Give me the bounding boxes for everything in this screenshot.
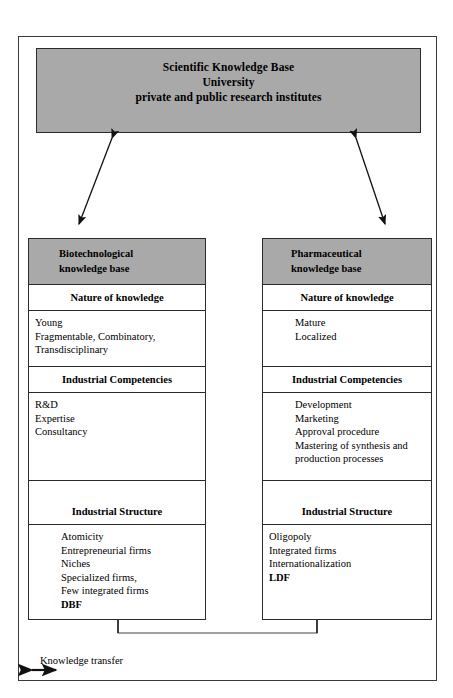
top-box-line-1: Scientific Knowledge Base bbox=[163, 60, 295, 75]
list-item: Mature bbox=[295, 316, 427, 330]
section-title-industrial-competencies-left: Industrial Competencies bbox=[29, 367, 205, 393]
top-box-line-3: private and public research institutes bbox=[135, 90, 321, 105]
diagram-page: Scientific Knowledge Base University pri… bbox=[0, 0, 453, 698]
list-item: Transdisciplinary bbox=[35, 343, 201, 357]
column-header-biotechnological: Biotechnological knowledge base bbox=[29, 239, 205, 285]
list-item: R&D bbox=[35, 398, 201, 412]
list-item: Specialized firms, bbox=[61, 571, 201, 585]
section-body-nature-of-knowledge-left: Young Fragmentable, Combinatory, Transdi… bbox=[29, 311, 205, 367]
section-title-industrial-structure-right: Industrial Structure bbox=[263, 481, 431, 525]
section-title-nature-of-knowledge-left: Nature of knowledge bbox=[29, 285, 205, 311]
list-item: Entrepreneurial firms bbox=[61, 544, 201, 558]
list-item: Fragmentable, Combinatory, bbox=[35, 330, 201, 344]
list-item: Marketing bbox=[295, 412, 427, 426]
column-header-line-1: Biotechnological bbox=[59, 246, 205, 261]
list-item: Integrated firms bbox=[269, 544, 427, 558]
column-header-line-1: Pharmaceutical bbox=[291, 246, 431, 261]
section-title-industrial-competencies-right: Industrial Competencies bbox=[263, 367, 431, 393]
list-item: Few integrated firms bbox=[61, 584, 201, 598]
list-item: DBF bbox=[61, 598, 201, 612]
column-header-line-2: knowledge base bbox=[59, 261, 205, 276]
section-body-industrial-structure-right: Oligopoly Integrated firms International… bbox=[263, 525, 431, 619]
list-item: Expertise bbox=[35, 412, 201, 426]
list-item: Development bbox=[295, 398, 427, 412]
pharmaceutical-knowledge-base-column: Pharmaceutical knowledge base Nature of … bbox=[262, 238, 432, 620]
legend-label: Knowledge transfer bbox=[26, 655, 123, 666]
list-item: production processes bbox=[295, 452, 427, 466]
list-item: Internationalization bbox=[269, 557, 427, 571]
list-item: Niches bbox=[61, 557, 201, 571]
top-box-line-2: University bbox=[202, 75, 254, 90]
legend: Knowledge transfer bbox=[26, 655, 123, 666]
list-item: Localized bbox=[295, 330, 427, 344]
list-item: Oligopoly bbox=[269, 530, 427, 544]
list-item: Mastering of synthesis and bbox=[295, 439, 427, 453]
biotechnological-knowledge-base-column: Biotechnological knowledge base Nature o… bbox=[28, 238, 206, 620]
list-item: Consultancy bbox=[35, 425, 201, 439]
list-item: Young bbox=[35, 316, 201, 330]
list-item: Approval procedure bbox=[295, 425, 427, 439]
column-header-pharmaceutical: Pharmaceutical knowledge base bbox=[263, 239, 431, 285]
section-body-nature-of-knowledge-right: Mature Localized bbox=[263, 311, 431, 367]
list-item: LDF bbox=[269, 571, 427, 585]
section-body-industrial-structure-left: Atomicity Entrepreneurial firms Niches S… bbox=[29, 525, 205, 619]
list-item: Atomicity bbox=[61, 530, 201, 544]
section-title-nature-of-knowledge-right: Nature of knowledge bbox=[263, 285, 431, 311]
column-header-line-2: knowledge base bbox=[291, 261, 431, 276]
section-title-industrial-structure-left: Industrial Structure bbox=[29, 481, 205, 525]
scientific-knowledge-base-box: Scientific Knowledge Base University pri… bbox=[36, 48, 421, 133]
section-body-industrial-competencies-left: R&D Expertise Consultancy bbox=[29, 393, 205, 481]
section-body-industrial-competencies-right: Development Marketing Approval procedure… bbox=[263, 393, 431, 481]
